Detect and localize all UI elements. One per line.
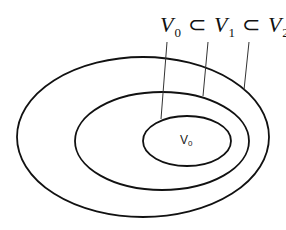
formula-v0-subscript: 0 bbox=[174, 25, 181, 40]
formula-v2-subscript: 2 bbox=[282, 25, 286, 40]
leader-line-v0 bbox=[161, 42, 167, 119]
subset-operator-1: ⊂ bbox=[188, 12, 206, 37]
inner-label-symbol: V bbox=[180, 133, 188, 147]
nested-sets-diagram: V0 ⊂ V1 ⊂ V2 V0 bbox=[0, 0, 286, 230]
inner-set-label: V0 bbox=[180, 133, 192, 148]
formula-v1-subscript: 1 bbox=[228, 25, 235, 40]
formula-v1-symbol: V bbox=[214, 12, 227, 37]
subset-operator-2: ⊂ bbox=[242, 12, 260, 37]
inner-label-subscript: 0 bbox=[188, 139, 192, 148]
formula-v2-symbol: V bbox=[268, 12, 281, 37]
formula-v0-symbol: V bbox=[160, 12, 173, 37]
subset-formula: V0 ⊂ V1 ⊂ V2 bbox=[160, 12, 286, 41]
leader-line-v2 bbox=[244, 42, 249, 90]
